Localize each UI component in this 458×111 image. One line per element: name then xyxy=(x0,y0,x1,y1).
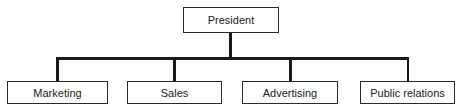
node-label: Advertising xyxy=(263,87,317,99)
connector-sales xyxy=(173,57,176,82)
node-advertising: Advertising xyxy=(242,81,338,104)
connector-marketing xyxy=(56,57,59,82)
node-label: Public relations xyxy=(370,87,445,99)
connector-advertising xyxy=(289,57,292,82)
connector-public-relations xyxy=(407,57,410,82)
connector-horizontal-bar xyxy=(56,57,409,60)
node-label: Marketing xyxy=(33,87,81,99)
connector-president-trunk xyxy=(229,32,232,59)
node-label: President xyxy=(208,14,254,26)
node-marketing: Marketing xyxy=(7,81,108,104)
node-public-relations: Public relations xyxy=(360,81,455,104)
node-sales: Sales xyxy=(127,81,222,104)
node-president: President xyxy=(183,7,279,33)
node-label: Sales xyxy=(161,87,189,99)
